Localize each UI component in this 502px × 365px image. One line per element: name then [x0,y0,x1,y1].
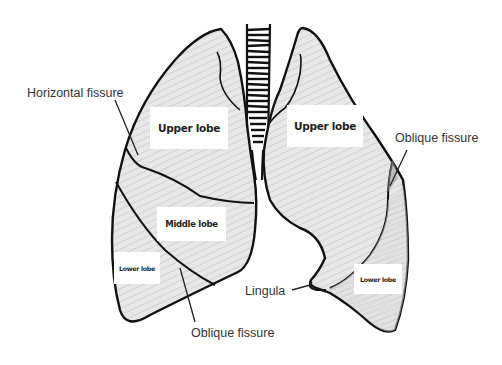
oblique-fissure-right-callout: Oblique fissure [191,327,274,340]
right-upper-lobe-label: Upper lobe [150,107,228,149]
horizontal-fissure-callout: Horizontal fissure [27,87,124,100]
right-middle-lobe-label: Middle lobe [157,207,226,241]
lung-diagram: Upper lobe Upper lobe Middle lobe Lower … [0,0,502,365]
lung-illustration [0,0,502,365]
oblique-fissure-left-callout: Oblique fissure [395,132,478,145]
left-upper-lobe-label: Upper lobe [287,105,363,147]
lingula-callout: Lingula [245,285,285,298]
left-lower-lobe-label: Lower lobe [354,264,402,294]
right-lower-lobe-label: Lower lobe [114,252,160,284]
